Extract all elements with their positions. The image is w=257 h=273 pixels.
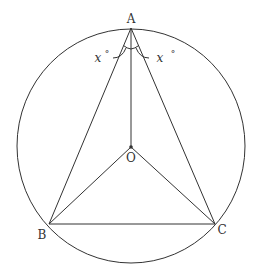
angle-arc-OAC — [131, 46, 139, 49]
angle-label-right-unit: ° — [171, 49, 176, 59]
leader-left — [113, 48, 126, 58]
angle-label-left-unit: ° — [105, 49, 110, 59]
angle-label-left-var: x — [95, 51, 102, 65]
segment-OC — [131, 147, 215, 224]
center-point — [129, 145, 133, 149]
segment-OB — [49, 147, 131, 224]
label-O: O — [126, 151, 136, 165]
angle-label-right-var: x — [157, 51, 164, 65]
geometry-diagram: A B C O x ° x ° — [0, 0, 257, 273]
leader-right — [136, 48, 149, 58]
label-A: A — [126, 12, 136, 26]
label-B: B — [38, 228, 47, 242]
label-C: C — [217, 223, 226, 237]
segment-AB — [49, 28, 131, 224]
angle-arc-BAO — [124, 46, 131, 49]
